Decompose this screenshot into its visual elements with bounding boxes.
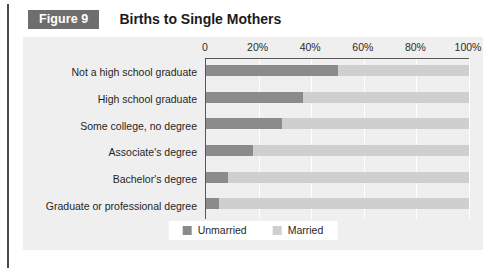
x-tick-label: 60% <box>352 41 373 53</box>
x-tick-label: 40% <box>300 41 321 53</box>
bar-segment-unmarried <box>206 145 253 156</box>
legend-swatch-married <box>273 226 282 235</box>
category-label: Bachelor's degree <box>113 173 197 185</box>
category-label: Graduate or professional degree <box>46 200 197 212</box>
bar-track <box>206 92 469 103</box>
x-tick-label: 80% <box>405 41 426 53</box>
bar-segment-married <box>206 172 469 183</box>
bar-row: Graduate or professional degree <box>206 192 469 219</box>
bar-row: Bachelor's degree <box>206 166 469 193</box>
legend-item-married: Married <box>273 224 324 236</box>
bar-row: Some college, no degree <box>206 112 469 139</box>
figure-left-rule <box>7 4 9 268</box>
figure-number-badge: Figure 9 <box>28 10 99 29</box>
page-title: Births to Single Mothers <box>119 11 281 27</box>
bar-row: Associate's degree <box>206 139 469 166</box>
x-tick-label: 20% <box>247 41 268 53</box>
bar-track <box>206 65 469 76</box>
chart-panel: 020%40%60%80%100% Not a high school grad… <box>23 37 483 250</box>
plot-area: Not a high school graduateHigh school gr… <box>205 58 469 219</box>
legend-item-unmarried: Unmarried <box>183 224 247 236</box>
bar-segment-married <box>206 198 469 209</box>
bar-row: Not a high school graduate <box>206 59 469 86</box>
chart-legend: Unmarried Married <box>169 221 338 240</box>
category-label: Not a high school graduate <box>71 66 197 78</box>
bar-track <box>206 172 469 183</box>
bar-row: High school graduate <box>206 86 469 113</box>
bar-track <box>206 118 469 129</box>
legend-swatch-unmarried <box>183 226 192 235</box>
figure-header: Figure 9 Births to Single Mothers <box>28 9 281 29</box>
bar-rows: Not a high school graduateHigh school gr… <box>206 59 469 219</box>
legend-label-unmarried: Unmarried <box>198 224 247 236</box>
bar-segment-unmarried <box>206 118 282 129</box>
x-tick-label: 0 <box>202 41 208 53</box>
category-label: Some college, no degree <box>80 120 197 132</box>
bar-segment-unmarried <box>206 92 303 103</box>
bar-track <box>206 198 469 209</box>
x-axis-tick-labels: 020%40%60%80%100% <box>23 41 483 57</box>
figure-container: Figure 9 Births to Single Mothers 020%40… <box>0 0 496 277</box>
category-label: High school graduate <box>98 93 197 105</box>
category-label: Associate's degree <box>109 146 197 158</box>
bar-track <box>206 145 469 156</box>
x-tick-label: 100% <box>455 41 482 53</box>
gridline <box>469 59 470 219</box>
bar-segment-unmarried <box>206 172 228 183</box>
bar-segment-unmarried <box>206 65 338 76</box>
bar-segment-unmarried <box>206 198 219 209</box>
legend-label-married: Married <box>288 224 324 236</box>
